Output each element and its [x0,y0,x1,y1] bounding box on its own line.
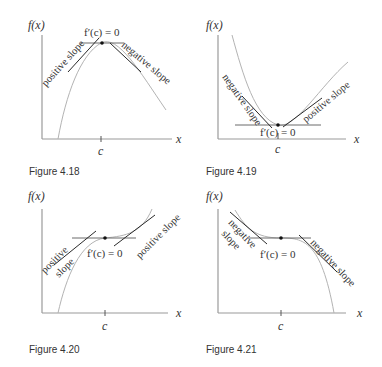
positive-slope-label: positive slope [39,38,86,89]
figure-4-20-graph: f(x) x c f′(c) = 0 positive slope positi… [0,183,191,367]
right-positive-slope-label: positive slope [134,211,183,260]
derivative-zero-label: f′(c) = 0 [260,126,296,139]
figure-caption: Figure 4.21 [206,344,257,355]
y-axis-label: f(x) [28,189,45,203]
figure-4-19: f(x) x c f′(c) = 0 negative slope positi… [191,0,382,183]
positive-slope-label: positive slope [300,79,352,125]
figure-4-19-graph: f(x) x c f′(c) = 0 negative slope positi… [191,0,382,183]
y-axis-label: f(x) [206,18,223,32]
x-axis-label: x [353,132,360,146]
x-axis-label: x [356,306,363,320]
figure-caption: Figure 4.18 [29,166,80,177]
negative-slope-label: negative slope [220,72,264,128]
c-tick-label: c [102,319,108,333]
x-axis-label: x [175,132,182,146]
c-tick-label: c [98,144,104,158]
critical-point [279,236,283,240]
y-axis-label: f(x) [206,189,223,203]
x-axis-label: x [175,306,182,320]
figure-4-18-graph: f(x) x c f′(c) = 0 positive slope negati… [0,0,191,183]
figure-4-20: f(x) x c f′(c) = 0 positive slope positi… [0,183,191,367]
c-tick-label: c [275,142,281,156]
figure-caption: Figure 4.19 [206,166,257,177]
negative-slope-label: negative slope [120,39,174,86]
figure-caption: Figure 4.20 [29,344,80,355]
right-negative-slope-label: negative slope [309,237,358,289]
figure-4-18: f(x) x c f′(c) = 0 positive slope negati… [0,0,191,183]
critical-point [103,236,107,240]
derivative-zero-label: f′(c) = 0 [260,248,296,261]
c-tick-label: c [278,319,284,333]
critical-point [100,41,104,45]
figure-4-21-graph: f(x) x c f′(c) = 0 negative slope negati… [191,183,382,367]
derivative-zero-label: f′(c) = 0 [84,26,120,39]
figure-4-21: f(x) x c f′(c) = 0 negative slope negati… [191,183,382,367]
derivative-zero-label: f′(c) = 0 [87,247,123,260]
function-curve [235,210,334,313]
y-axis-label: f(x) [28,18,45,32]
